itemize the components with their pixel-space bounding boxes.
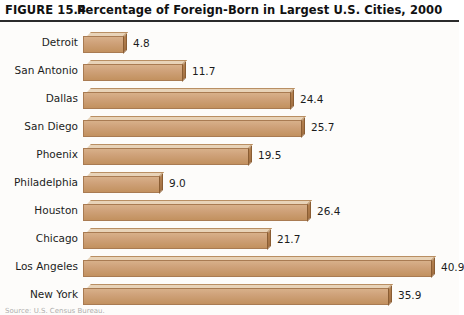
- bar-front-face: [83, 176, 160, 193]
- bar-san-antonio[interactable]: [83, 60, 183, 82]
- bar-top-face: [87, 172, 164, 176]
- bar-top-face: [87, 284, 393, 288]
- bar-side-face: [159, 173, 163, 194]
- bar-row: Phoenix19.5: [0, 140, 459, 168]
- value-label-detroit: 4.8: [133, 37, 150, 49]
- value-label-houston: 26.4: [317, 205, 340, 217]
- category-label-dallas: Dallas: [46, 92, 78, 104]
- bar-side-face: [388, 285, 392, 306]
- bar-row: New York35.9: [0, 280, 459, 308]
- bar-side-face: [267, 229, 271, 250]
- bar-top-face: [87, 256, 436, 260]
- value-label-chicago: 21.7: [277, 233, 300, 245]
- category-label-philadelphia: Philadelphia: [14, 176, 78, 188]
- bar-front-face: [83, 36, 124, 53]
- category-label-chicago: Chicago: [36, 232, 78, 244]
- bar-top-face: [87, 228, 272, 232]
- bar-row: Detroit4.8: [0, 28, 459, 56]
- category-label-los-angeles: Los Angeles: [15, 260, 78, 272]
- value-label-san-antonio: 11.7: [192, 65, 215, 77]
- bar-front-face: [83, 260, 432, 277]
- bar-chart-plot: Detroit4.8San Antonio11.7Dallas24.4San D…: [0, 24, 459, 309]
- bar-front-face: [83, 232, 268, 249]
- bar-top-face: [87, 60, 187, 64]
- value-label-dallas: 24.4: [300, 93, 323, 105]
- bar-philadelphia[interactable]: [83, 172, 160, 194]
- bar-front-face: [83, 120, 302, 137]
- bar-side-face: [307, 201, 311, 222]
- bar-detroit[interactable]: [83, 32, 124, 54]
- bar-dallas[interactable]: [83, 88, 291, 110]
- bar-los-angeles[interactable]: [83, 256, 432, 278]
- category-label-san-diego: San Diego: [24, 120, 78, 132]
- header-divider: [0, 20, 459, 22]
- bar-row: Houston26.4: [0, 196, 459, 224]
- bar-side-face: [290, 89, 294, 110]
- bar-row: Los Angeles40.9: [0, 252, 459, 280]
- bar-houston[interactable]: [83, 200, 308, 222]
- source-note: Source: U.S. Census Bureau.: [5, 307, 105, 315]
- bar-side-face: [182, 61, 186, 82]
- bar-top-face: [87, 144, 253, 148]
- value-label-philadelphia: 9.0: [169, 177, 186, 189]
- bar-chicago[interactable]: [83, 228, 268, 250]
- category-label-new-york: New York: [30, 288, 78, 300]
- category-label-phoenix: Phoenix: [36, 148, 78, 160]
- category-label-houston: Houston: [34, 204, 78, 216]
- bar-top-face: [87, 32, 128, 36]
- bar-san-diego[interactable]: [83, 116, 302, 138]
- bar-front-face: [83, 148, 249, 165]
- value-label-los-angeles: 40.9: [441, 261, 464, 273]
- figure-title: Percentage of Foreign-Born in Largest U.…: [77, 3, 442, 17]
- bar-side-face: [248, 145, 252, 166]
- bar-top-face: [87, 200, 312, 204]
- category-label-detroit: Detroit: [42, 36, 78, 48]
- bar-top-face: [87, 88, 295, 92]
- bar-row: Philadelphia9.0: [0, 168, 459, 196]
- bar-top-face: [87, 116, 306, 120]
- figure-header: FIGURE 15.4 Percentage of Foreign-Born i…: [0, 0, 459, 21]
- category-label-san-antonio: San Antonio: [15, 64, 78, 76]
- bar-side-face: [123, 33, 127, 54]
- bar-side-face: [301, 117, 305, 138]
- bar-new-york[interactable]: [83, 284, 389, 306]
- bar-front-face: [83, 92, 291, 109]
- bar-row: San Diego25.7: [0, 112, 459, 140]
- value-label-san-diego: 25.7: [311, 121, 334, 133]
- bar-phoenix[interactable]: [83, 144, 249, 166]
- bar-row: Dallas24.4: [0, 84, 459, 112]
- bar-side-face: [431, 257, 435, 278]
- bar-front-face: [83, 288, 389, 305]
- figure-number: FIGURE 15.4: [5, 3, 86, 17]
- bar-row: Chicago21.7: [0, 224, 459, 252]
- value-label-new-york: 35.9: [398, 289, 421, 301]
- value-label-phoenix: 19.5: [258, 149, 281, 161]
- bar-front-face: [83, 204, 308, 221]
- bar-row: San Antonio11.7: [0, 56, 459, 84]
- bar-front-face: [83, 64, 183, 81]
